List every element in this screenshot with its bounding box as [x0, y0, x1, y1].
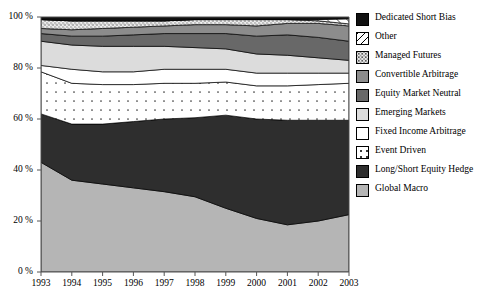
- legend-label: Fixed Income Arbitrage: [375, 126, 466, 137]
- legend-swatch-icon: [356, 165, 369, 178]
- legend-item-long-short-equity-hedge[interactable]: Long/Short Equity Hedge: [356, 164, 481, 178]
- legend-item-managed-futures[interactable]: Managed Futures: [356, 50, 481, 64]
- legend-item-other[interactable]: Other: [356, 31, 481, 45]
- x-tick-label: 1995: [86, 278, 120, 288]
- chart-screenshot: 0 %20 %40 %60 %80 %100 % 199319941995199…: [0, 0, 481, 305]
- x-tick-label: 1998: [178, 278, 212, 288]
- chart-legend: Dedicated Short BiasOtherManaged Futures…: [356, 12, 481, 202]
- legend-swatch-icon: [356, 70, 369, 83]
- legend-label: Event Driven: [375, 145, 426, 156]
- x-tick-label: 2000: [240, 278, 274, 288]
- y-tick-label: 40 %: [0, 164, 33, 174]
- legend-label: Global Macro: [375, 183, 428, 194]
- legend-swatch-icon: [356, 146, 369, 159]
- legend-item-convertible-arbitrage[interactable]: Convertible Arbitrage: [356, 69, 481, 83]
- y-axis-ticks: [37, 17, 41, 272]
- legend-swatch-icon: [356, 184, 369, 197]
- legend-label: Convertible Arbitrage: [375, 69, 458, 80]
- area-layers: [41, 17, 349, 272]
- x-tick-label: 2002: [301, 278, 335, 288]
- x-tick-label: 2003: [332, 278, 366, 288]
- plot-canvas: [0, 0, 356, 305]
- x-tick-label: 1996: [116, 278, 150, 288]
- x-tick-label: 1994: [55, 278, 89, 288]
- legend-item-equity-market-neutral[interactable]: Equity Market Neutral: [356, 88, 481, 102]
- legend-swatch-icon: [356, 127, 369, 140]
- y-tick-label: 100 %: [0, 11, 33, 21]
- y-tick-label: 60 %: [0, 113, 33, 123]
- legend-swatch-icon: [356, 51, 369, 64]
- legend-label: Emerging Markets: [375, 107, 446, 118]
- x-tick-label: 1997: [147, 278, 181, 288]
- legend-label: Long/Short Equity Hedge: [375, 164, 473, 175]
- y-tick-label: 0 %: [0, 266, 33, 276]
- legend-swatch-icon: [356, 89, 369, 102]
- legend-item-dedicated-short-bias[interactable]: Dedicated Short Bias: [356, 12, 481, 26]
- legend-item-global-macro[interactable]: Global Macro: [356, 183, 481, 197]
- legend-item-event-driven[interactable]: Event Driven: [356, 145, 481, 159]
- legend-swatch-icon: [356, 32, 369, 45]
- x-tick-label: 2001: [270, 278, 304, 288]
- legend-label: Managed Futures: [375, 50, 441, 61]
- legend-swatch-icon: [356, 13, 369, 26]
- legend-label: Dedicated Short Bias: [375, 12, 456, 23]
- x-tick-label: 1999: [209, 278, 243, 288]
- legend-label: Other: [375, 31, 397, 42]
- legend-item-emerging-markets[interactable]: Emerging Markets: [356, 107, 481, 121]
- y-tick-label: 80 %: [0, 62, 33, 72]
- y-tick-label: 20 %: [0, 215, 33, 225]
- x-tick-label: 1993: [24, 278, 58, 288]
- legend-item-fixed-income-arbitrage[interactable]: Fixed Income Arbitrage: [356, 126, 481, 140]
- stacked-area-chart: 0 %20 %40 %60 %80 %100 % 199319941995199…: [0, 0, 356, 305]
- legend-swatch-icon: [356, 108, 369, 121]
- x-axis-ticks: [41, 272, 349, 276]
- legend-label: Equity Market Neutral: [375, 88, 461, 99]
